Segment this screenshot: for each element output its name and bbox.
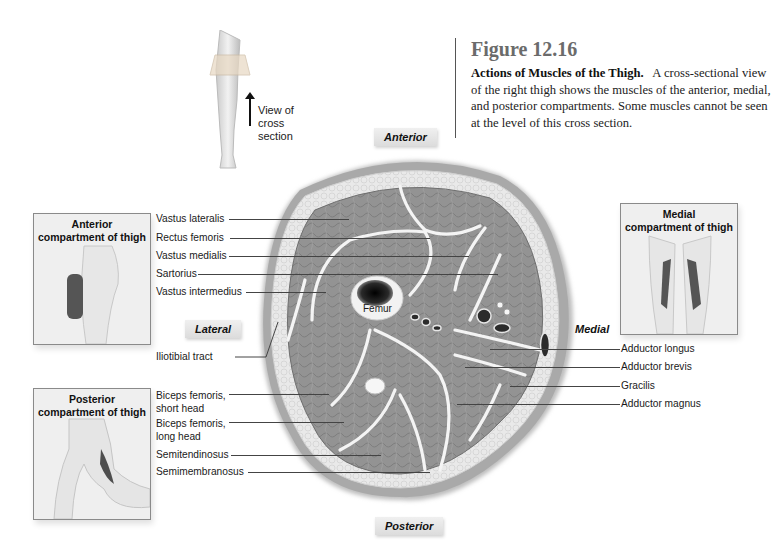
direction-anterior: Anterior: [374, 128, 437, 146]
medial-compartment-box: Medial compartment of thigh: [620, 203, 738, 335]
anterior-compartment-box: Anterior compartment of thigh: [33, 213, 151, 345]
leader-line: [246, 292, 326, 293]
leader-line: [229, 422, 344, 423]
label-adductor-magnus: Adductor magnus: [621, 398, 701, 411]
leader-line: [198, 274, 498, 275]
label-iliotibial-tract: Iliotibial tract: [156, 351, 213, 364]
leader-line: [457, 404, 620, 405]
label-vastus-lateralis: Vastus lateralis: [156, 213, 224, 226]
label-vastus-intermedius: Vastus intermedius: [156, 286, 242, 299]
label-adductor-brevis: Adductor brevis: [621, 361, 692, 374]
label-adductor-longus: Adductor longus: [621, 343, 695, 356]
leader-line: [465, 367, 620, 368]
label-gracilis: Gracilis: [621, 380, 655, 393]
medial-compartment-title: Medial compartment of thigh: [621, 208, 737, 233]
leader-line: [490, 349, 620, 350]
leader-line: [231, 455, 381, 456]
label-rectus-femoris: Rectus femoris: [156, 232, 224, 245]
leader-line: [510, 386, 620, 387]
leader-line: [230, 238, 430, 239]
leader-line: [248, 472, 430, 473]
figure-caption: Actions of Muscles of the Thigh. A cross…: [471, 65, 771, 131]
leg-orientation-illustration: [200, 30, 260, 170]
label-semimembranosus: Semimembranosus: [156, 466, 244, 479]
view-of-cross-section-label: View of cross section: [258, 104, 294, 143]
label-biceps-femoris-long-head: Biceps femoris, long head: [156, 418, 226, 443]
caption-rule: [455, 38, 456, 138]
direction-posterior: Posterior: [375, 517, 443, 535]
label-sartorius: Sartorius: [156, 268, 197, 281]
anterior-compartment-title: Anterior compartment of thigh: [34, 218, 150, 243]
direction-lateral: Lateral: [185, 320, 241, 338]
label-semitendinosus: Semitendinosus: [156, 449, 229, 462]
femur-label: Femur: [363, 303, 392, 316]
leader-line: [229, 394, 329, 395]
label-vastus-medialis: Vastus medialis: [156, 250, 227, 263]
posterior-compartment-box: Posterior compartment of thigh: [33, 388, 151, 520]
label-biceps-femoris-short-head: Biceps femoris, short head: [156, 390, 226, 415]
arrow-up-icon: [249, 98, 251, 126]
direction-medial: Medial: [565, 320, 619, 338]
figure-number: Figure 12.16: [471, 38, 577, 61]
leader-line: [229, 256, 469, 257]
caption-title: Actions of Muscles of the Thigh.: [471, 66, 644, 80]
posterior-compartment-title: Posterior compartment of thigh: [34, 393, 150, 418]
leader-line: [229, 219, 349, 220]
